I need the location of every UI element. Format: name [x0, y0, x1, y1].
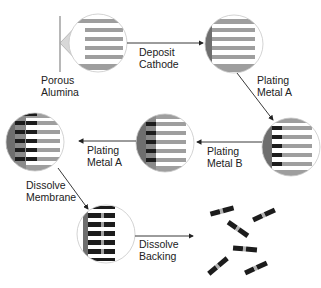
- label-dissolve-backing-1: Dissolve: [139, 238, 179, 250]
- label-dissolve-membrane-1: Dissolve: [26, 179, 66, 191]
- label-deposit-cathode-2: Cathode: [139, 58, 179, 70]
- metal-a-stage: [262, 118, 320, 176]
- label-plating-metal-b-line2: Metal B: [207, 157, 243, 169]
- nanorod: [233, 245, 257, 252]
- label-dissolve-backing-2: Backing: [139, 250, 177, 262]
- label-plating-metal-a-1-line2: Metal A: [257, 86, 292, 98]
- label-porous-alumina-2: Alumina: [41, 86, 79, 98]
- label-plating-metal-b-line1: Plating: [207, 145, 239, 157]
- process-diagram: Porous Alumina Deposit Cathode Plating M…: [0, 0, 321, 288]
- nanorod: [207, 256, 229, 275]
- label-deposit-cathode-1: Deposit: [139, 46, 175, 58]
- free-nanorods-stage: [207, 205, 276, 275]
- nanorod: [244, 261, 268, 276]
- label-dissolve-membrane-2: Membrane: [26, 191, 76, 203]
- metal-b-stage: [136, 114, 194, 172]
- label-plating-metal-a-1-line1: Plating: [257, 74, 289, 86]
- label-porous-alumina-1: Porous: [41, 74, 74, 86]
- nanorod: [227, 220, 250, 238]
- nanorod: [252, 208, 276, 223]
- cathode-layer: [205, 15, 212, 73]
- metal-a-again-stage: [6, 113, 64, 171]
- label-plating-metal-a-2-line2: Metal A: [87, 156, 122, 168]
- membrane-dissolved-stage: [77, 205, 135, 263]
- porous-alumina-stage: [60, 14, 127, 72]
- nanorod: [210, 205, 234, 216]
- cathode-stage: [205, 15, 263, 73]
- label-plating-metal-a-2-line1: Plating: [87, 144, 119, 156]
